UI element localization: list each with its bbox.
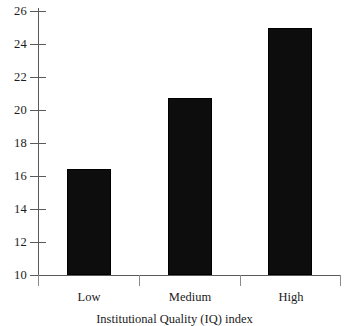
bar-medium <box>168 98 212 275</box>
y-axis-tick-20 <box>30 110 46 111</box>
y-axis-label-12-wrap: 12 <box>0 236 27 248</box>
y-axis-label-18: 18 <box>3 137 27 149</box>
y-axis-label-22-wrap: 22 <box>0 71 27 83</box>
y-axis-label-22: 22 <box>3 71 27 83</box>
x-axis-tick-3 <box>340 275 341 286</box>
y-axis-label-24-wrap: 24 <box>0 38 27 50</box>
x-axis-tick-2 <box>240 275 241 286</box>
bar-low <box>67 169 111 275</box>
y-axis-label-14: 14 <box>3 203 27 215</box>
y-axis-label-24: 24 <box>3 38 27 50</box>
y-axis-label-20: 20 <box>3 104 27 116</box>
y-axis-label-16-wrap: 16 <box>0 170 27 182</box>
y-axis-label-16: 16 <box>3 170 27 182</box>
y-axis-label-12: 12 <box>3 236 27 248</box>
y-axis-tick-24 <box>30 44 46 45</box>
x-axis-tick-1 <box>139 275 140 286</box>
x-axis-title: Institutional Quality (IQ) index <box>0 312 349 326</box>
x-axis-label-low: Low <box>59 290 119 304</box>
y-axis-tick-22 <box>30 77 46 78</box>
x-axis-label-high: High <box>261 290 321 304</box>
y-axis-label-14-wrap: 14 <box>0 203 27 215</box>
x-axis-line <box>30 275 341 276</box>
y-axis-label-10: 10 <box>3 269 27 281</box>
x-axis-label-medium: Medium <box>155 290 225 304</box>
y-axis-tick-26 <box>30 11 46 12</box>
y-axis-label-20-wrap: 20 <box>0 104 27 116</box>
y-axis-tick-12 <box>30 242 46 243</box>
y-axis-label-10-wrap: 10 <box>0 269 27 281</box>
y-axis-label-26-wrap: 26 <box>0 5 27 17</box>
y-axis-label-26: 26 <box>3 5 27 17</box>
y-axis-tick-14 <box>30 209 46 210</box>
x-axis-tick-0 <box>38 275 39 286</box>
bar-high <box>268 28 312 276</box>
y-axis-tick-18 <box>30 143 46 144</box>
y-axis-label-18-wrap: 18 <box>0 137 27 149</box>
y-axis-tick-16 <box>30 176 46 177</box>
